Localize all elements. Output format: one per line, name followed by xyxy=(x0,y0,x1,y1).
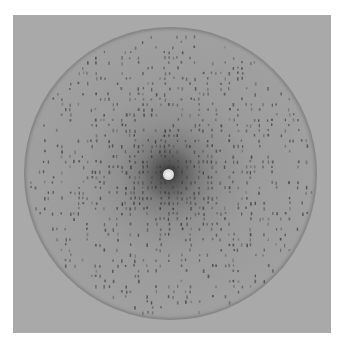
beam-stop xyxy=(163,169,174,180)
